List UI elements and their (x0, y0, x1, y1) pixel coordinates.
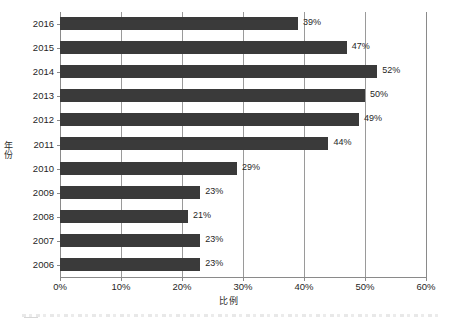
bar-chart-figure: 年份 39%47%52%50%49%44%29%23%21%23%23% 201… (0, 0, 457, 320)
gridline-60 (426, 12, 427, 277)
y-tick-mark (57, 193, 60, 194)
y-tick-label-2015: 2015 (18, 42, 54, 53)
y-tick-mark (57, 72, 60, 73)
y-tick-label-2011: 2011 (18, 139, 54, 150)
x-tick-mark (243, 277, 244, 281)
x-tick-label-40%: 40% (284, 281, 324, 292)
x-tick-mark (121, 277, 122, 281)
bar (60, 210, 188, 223)
bar (60, 258, 200, 271)
bar (60, 17, 298, 30)
bar (60, 113, 359, 126)
bar-row: 52% (60, 60, 426, 84)
bar (60, 89, 365, 102)
bar-value-label: 23% (205, 185, 223, 198)
bar-row: 44% (60, 132, 426, 156)
y-tick-label-2009: 2009 (18, 187, 54, 198)
x-tick-mark (426, 277, 427, 281)
bar (60, 234, 200, 247)
x-tick-mark (365, 277, 366, 281)
x-tick-label-50%: 50% (345, 281, 385, 292)
bar-row: 23% (60, 229, 426, 253)
x-tick-mark (304, 277, 305, 281)
y-tick-mark (57, 241, 60, 242)
bar (60, 41, 347, 54)
y-tick-label-2006: 2006 (18, 259, 54, 270)
y-tick-label-2016: 2016 (18, 18, 54, 29)
bar-value-label: 29% (242, 161, 260, 174)
clipped-text-line (22, 314, 442, 317)
x-tick-label-60%: 60% (406, 281, 446, 292)
bar-row: 29% (60, 157, 426, 181)
y-tick-mark (57, 145, 60, 146)
clipped-page-text-strip (0, 310, 457, 320)
bar (60, 162, 237, 175)
y-tick-mark (57, 265, 60, 266)
bar-row: 50% (60, 84, 426, 108)
y-tick-label-2010: 2010 (18, 163, 54, 174)
plot-area: 39%47%52%50%49%44%29%23%21%23%23% (60, 12, 426, 277)
y-tick-label-2013: 2013 (18, 90, 54, 101)
bar (60, 186, 200, 199)
bar-value-label: 47% (352, 40, 370, 53)
bar-row: 47% (60, 36, 426, 60)
bar (60, 65, 377, 78)
bar-value-label: 23% (205, 233, 223, 246)
y-tick-mark (57, 169, 60, 170)
x-tick-label-0%: 0% (40, 281, 80, 292)
y-tick-label-2007: 2007 (18, 235, 54, 246)
x-tick-label-10%: 10% (101, 281, 141, 292)
bar-value-label: 21% (193, 209, 211, 222)
x-tick-label-30%: 30% (223, 281, 263, 292)
x-axis-title: 比例 (0, 294, 457, 307)
bar-value-label: 44% (333, 136, 351, 149)
clipped-text-dash (24, 317, 38, 318)
y-tick-mark (57, 96, 60, 97)
bar-value-label: 49% (364, 112, 382, 125)
y-tick-label-2012: 2012 (18, 114, 54, 125)
bar-row: 23% (60, 181, 426, 205)
bar-value-label: 23% (205, 257, 223, 270)
bar-value-label: 39% (303, 16, 321, 29)
bar-row: 39% (60, 12, 426, 36)
x-tick-label-20%: 20% (162, 281, 202, 292)
bar-row: 21% (60, 205, 426, 229)
bar-value-label: 50% (370, 88, 388, 101)
y-tick-mark (57, 217, 60, 218)
bar-row: 23% (60, 253, 426, 277)
x-tick-mark (182, 277, 183, 281)
y-tick-mark (57, 24, 60, 25)
bar (60, 137, 328, 150)
y-tick-label-2014: 2014 (18, 66, 54, 77)
bar-value-label: 52% (382, 64, 400, 77)
y-tick-mark (57, 48, 60, 49)
x-tick-mark (60, 277, 61, 281)
y-axis-title: 年份 (0, 130, 16, 170)
y-tick-mark (57, 120, 60, 121)
y-tick-label-2008: 2008 (18, 211, 54, 222)
bar-row: 49% (60, 108, 426, 132)
